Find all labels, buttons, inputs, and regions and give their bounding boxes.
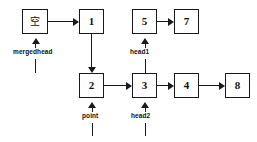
node-8: 8 (225, 73, 250, 98)
node-value: 空 (30, 17, 40, 27)
node-value: 8 (235, 80, 241, 91)
edge-line-5-to-7 (157, 21, 168, 22)
linked-list-diagram: 空 1 5 7 2 3 4 8 mergedhead hea (0, 0, 257, 142)
node-value: 1 (89, 16, 95, 27)
node-value: 7 (184, 16, 190, 27)
arrowhead-3-to-4 (168, 82, 174, 90)
node-3: 3 (132, 73, 157, 98)
node-4: 4 (174, 73, 199, 98)
pointer-label-head1: head1 (130, 49, 149, 56)
arrowhead-5-to-7 (168, 18, 174, 26)
edge-line-null-to-1 (48, 21, 73, 22)
node-value: 3 (142, 80, 148, 91)
pointer-stem-point-lower (92, 123, 93, 136)
edge-line-1-to-2 (91, 34, 92, 67)
pointer-stem-mergedhead-lower (35, 59, 36, 73)
node-value: 2 (89, 80, 95, 91)
edge-line-2-to-3 (104, 85, 126, 86)
pointer-stem-head2-lower (145, 123, 146, 136)
node-value: 4 (184, 80, 190, 91)
node-5: 5 (132, 9, 157, 34)
node-7: 7 (174, 9, 199, 34)
pointer-stem-head1-lower (145, 59, 146, 73)
arrowhead-1-to-2 (88, 67, 96, 73)
pointer-label-mergedhead: mergedhead (13, 49, 53, 56)
edge-line-3-to-4 (157, 85, 168, 86)
arrowhead-null-to-1 (73, 18, 79, 26)
pointer-label-point: point (82, 113, 98, 120)
node-merged-null: 空 (22, 9, 48, 34)
node-2: 2 (79, 73, 104, 98)
arrowhead-4-to-8 (219, 82, 225, 90)
node-1: 1 (79, 9, 104, 34)
node-value: 5 (142, 16, 148, 27)
arrowhead-2-to-3 (126, 82, 132, 90)
pointer-label-head2: head2 (131, 113, 150, 120)
edge-line-4-to-8 (199, 85, 219, 86)
